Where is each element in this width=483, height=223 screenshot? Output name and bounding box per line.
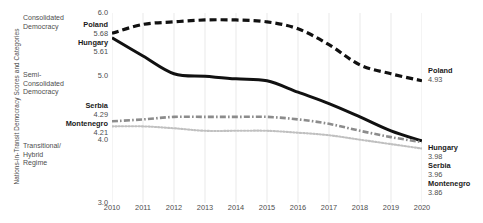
left-label-serbia: Serbia 4.29 xyxy=(42,101,108,119)
plot-area xyxy=(112,13,422,203)
right-label-serbia-name: Serbia xyxy=(428,161,451,170)
right-label-serbia-value: 3.96 xyxy=(428,170,451,179)
category-label-transitional-hybrid-regime-line: Transitional/ xyxy=(23,142,61,151)
right-label-hungary: Hungary 3.98 xyxy=(428,143,458,161)
y-axis-title-container: Nations-in-Transit Democracy Scores and … xyxy=(0,0,16,223)
category-label-transitional-hybrid-regime: Transitional/HybridRegime xyxy=(23,142,61,168)
x-tick-2020: 2020 xyxy=(414,203,430,212)
left-label-poland-name: Poland xyxy=(42,20,108,29)
y-tick-5.0: 5.0 xyxy=(98,71,108,80)
left-label-poland-value: 5.68 xyxy=(42,29,108,38)
right-label-montenegro-value: 3.86 xyxy=(428,188,470,197)
right-label-poland-value: 4.93 xyxy=(428,75,453,84)
category-label-transitional-hybrid-regime-line: Regime xyxy=(23,159,61,168)
left-label-poland: Poland 5.68 xyxy=(42,20,108,38)
right-label-montenegro-name: Montenegro xyxy=(428,179,470,188)
category-label-semi-consolidated-democracy-line: Democracy xyxy=(23,88,64,97)
democracy-scores-line-chart: Nations-in-Transit Democracy Scores and … xyxy=(0,0,483,223)
x-axis-ticks: 2010201120122013201420152016201720182019… xyxy=(112,203,442,219)
x-tick-2017: 2017 xyxy=(321,203,337,212)
category-label-semi-consolidated-democracy-line: Semi- xyxy=(23,71,64,80)
right-label-hungary-value: 3.98 xyxy=(428,152,458,161)
right-label-poland: Poland 4.93 xyxy=(428,66,453,84)
right-label-hungary-name: Hungary xyxy=(428,143,458,152)
x-tick-2018: 2018 xyxy=(352,203,368,212)
right-label-serbia: Serbia 3.96 xyxy=(428,161,451,179)
left-label-hungary-name: Hungary xyxy=(42,38,108,47)
left-label-serbia-name: Serbia xyxy=(42,101,108,110)
category-label-semi-consolidated-democracy-line: Consolidated xyxy=(23,80,64,89)
y-tick-6.0: 6.0 xyxy=(98,8,108,17)
x-tick-2016: 2016 xyxy=(290,203,306,212)
left-label-serbia-value: 4.29 xyxy=(42,110,108,119)
category-label-semi-consolidated-democracy: Semi-ConsolidatedDemocracy xyxy=(23,71,64,97)
x-tick-2011: 2011 xyxy=(135,203,151,212)
series-lines xyxy=(112,13,422,203)
left-label-montenegro-name: Montenegro xyxy=(30,119,108,128)
right-label-montenegro: Montenegro 3.86 xyxy=(428,179,470,197)
x-tick-2012: 2012 xyxy=(166,203,182,212)
left-label-montenegro: Montenegro 4.21 xyxy=(30,119,108,137)
left-label-hungary: Hungary 5.61 xyxy=(42,38,108,56)
y-axis-title: Nations-in-Transit Democracy Scores and … xyxy=(13,7,20,207)
right-label-poland-name: Poland xyxy=(428,66,453,75)
x-tick-2019: 2019 xyxy=(383,203,399,212)
x-tick-2014: 2014 xyxy=(228,203,244,212)
category-label-transitional-hybrid-regime-line: Hybrid xyxy=(23,151,61,160)
left-label-hungary-value: 5.61 xyxy=(42,47,108,56)
x-tick-2013: 2013 xyxy=(197,203,213,212)
x-tick-2010: 2010 xyxy=(104,203,120,212)
x-tick-2015: 2015 xyxy=(259,203,275,212)
left-label-montenegro-value: 4.21 xyxy=(30,128,108,137)
